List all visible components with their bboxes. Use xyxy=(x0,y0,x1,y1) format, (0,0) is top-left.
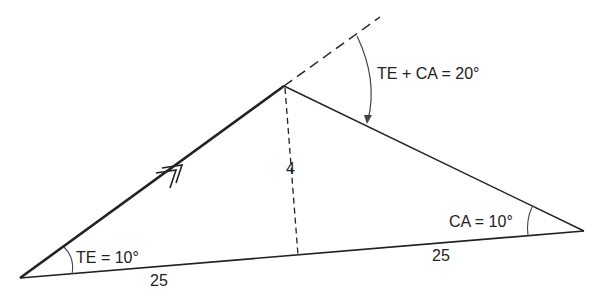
vector-triangle-diagram: TE + CA = 20° TE = 10° CA = 10° 4 25 25 xyxy=(0,0,599,298)
right-side-line xyxy=(284,86,584,231)
arc-arrowhead-icon xyxy=(364,115,372,124)
te-angle-label: TE = 10° xyxy=(76,250,139,266)
height-label: 4 xyxy=(286,161,295,177)
base-right-label: 25 xyxy=(432,248,450,264)
ca-angle-arc xyxy=(528,207,533,236)
ca-angle-label: CA = 10° xyxy=(449,214,513,230)
sum-angle-arc xyxy=(357,36,371,120)
extension-dashed-line xyxy=(284,17,380,86)
sum-angle-label: TE + CA = 20° xyxy=(377,66,479,82)
base-left-label: 25 xyxy=(150,273,168,289)
track-vector xyxy=(20,86,284,278)
te-angle-arc xyxy=(64,247,73,274)
